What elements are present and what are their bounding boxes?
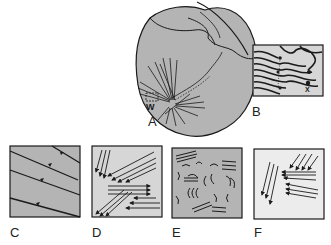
panel-c-parallel-lines	[10, 146, 80, 217]
panel-b-label: B	[252, 104, 261, 119]
figure-canvas: W X	[0, 0, 331, 245]
panel-e-disordered-fibers	[172, 148, 242, 218]
panel-e-label: E	[172, 225, 181, 240]
panel-b-marker-x: X	[305, 86, 310, 93]
panel-d-label: D	[92, 225, 101, 240]
panel-c-label: C	[10, 225, 19, 240]
panel-f-sparse-arrows	[254, 149, 324, 219]
panel-b-wavy-fibers	[253, 45, 323, 96]
panel-d-arrow-groups	[92, 146, 162, 217]
panel-f-label: F	[254, 225, 262, 240]
panel-a-label: A	[148, 114, 157, 129]
panel-a-marker-w: W	[146, 102, 155, 112]
